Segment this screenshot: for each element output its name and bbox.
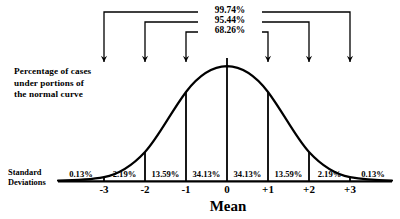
tick-label-plus-2: +2	[297, 183, 321, 195]
sd-label-line-1: Standard	[8, 168, 62, 178]
bracket-label-68: 68.26%	[198, 25, 262, 35]
bracket-68	[183, 32, 271, 62]
region-pct-1: 2.19%	[104, 169, 145, 179]
region-pct-2: 13.59%	[145, 169, 186, 179]
caption-line-1: Percentage of cases	[14, 66, 134, 78]
bracket-label-99: 99.74%	[198, 5, 262, 15]
region-pct-3: 34.13%	[186, 169, 227, 179]
bracket-label-95: 95.44%	[198, 15, 262, 25]
tick-label-minus-1: -1	[174, 183, 198, 195]
region-pct-6: 2.19%	[309, 169, 350, 179]
tick-label-minus-2: -2	[133, 183, 157, 195]
region-pct-4: 34.13%	[227, 169, 268, 179]
mean-axis-title: Mean	[186, 198, 270, 215]
tick-label-minus-3: -3	[92, 183, 116, 195]
sd-label-line-2: Deviations	[8, 178, 62, 188]
tick-label-plus-1: +1	[256, 183, 280, 195]
sd-divider-lines	[104, 58, 350, 181]
caption-line-2: under portions of	[14, 78, 134, 90]
tick-label-zero: 0	[215, 183, 239, 195]
caption-block: Percentage of cases under portions of th…	[14, 66, 134, 101]
region-pct-5: 13.59%	[268, 169, 309, 179]
tick-label-plus-3: +3	[338, 183, 362, 195]
region-pct-0: 0.13%	[58, 169, 104, 179]
standard-deviations-label: Standard Deviations	[8, 168, 62, 188]
caption-line-3: the normal curve	[14, 89, 134, 101]
region-pct-7: 0.13%	[350, 169, 396, 179]
